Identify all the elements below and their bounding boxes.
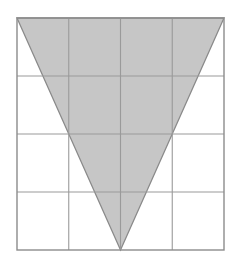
- geometry-figure: [0, 0, 241, 279]
- figure-canvas: [0, 0, 241, 279]
